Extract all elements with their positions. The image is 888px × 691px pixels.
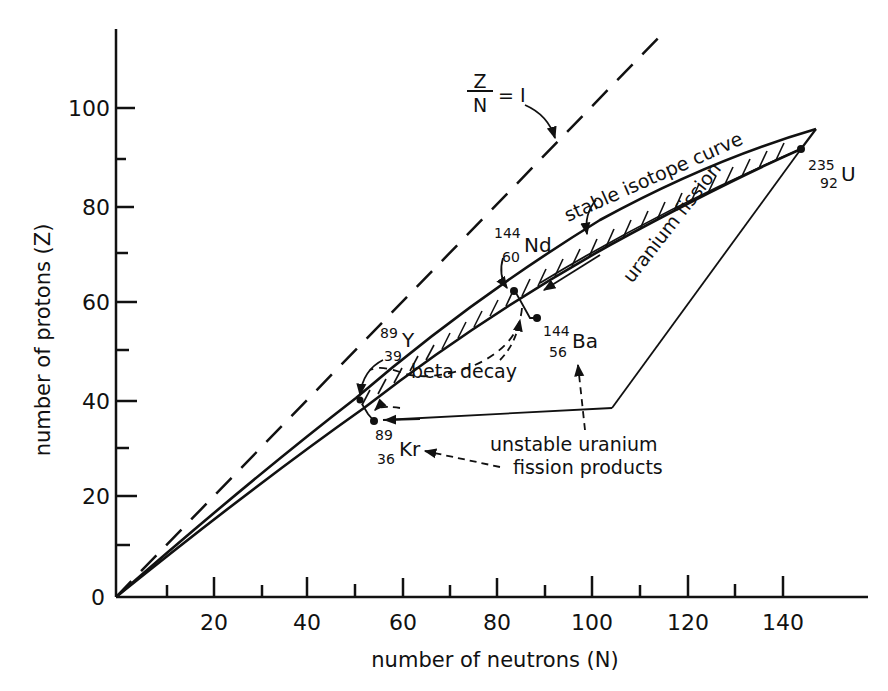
x-tick-label: 80 <box>483 610 511 635</box>
kr-symbol: Kr <box>399 437 421 461</box>
y-tick-label: 20 <box>82 484 110 509</box>
y-tick-label: 40 <box>82 389 110 414</box>
u-symbol: U <box>841 162 856 186</box>
fission-arrow-kr <box>385 419 420 420</box>
x-tick-label: 40 <box>293 610 321 635</box>
y-axis <box>116 29 137 597</box>
kr89-label: 89 36 Kr <box>375 427 421 467</box>
x-axis-title: number of neutrons (N) <box>371 648 618 672</box>
y-mass: 89 <box>380 325 398 341</box>
beta-decay-label: beta decay <box>411 360 517 382</box>
chart-canvas: 0 20 40 60 80 100 120 140 20 40 60 80 10… <box>0 0 888 691</box>
y89-label: 89 39 Y <box>380 325 415 364</box>
y89-point <box>357 397 364 404</box>
kr-atomic: 36 <box>377 451 395 467</box>
y-axis-title: number of protons (Z) <box>31 224 55 457</box>
u-atomic: 92 <box>820 175 838 191</box>
zn-equals: = I <box>498 84 526 106</box>
zn-equals-one-line <box>116 32 664 597</box>
y-tick-label: 100 <box>68 96 110 121</box>
beta-decay-arrow-y <box>375 407 400 410</box>
u-mass: 235 <box>808 157 835 173</box>
y-tick-labels: 20 40 60 80 100 <box>68 96 110 509</box>
x-tick-label: 60 <box>389 610 417 635</box>
fission-arrow-ba <box>544 255 600 290</box>
nd-mass: 144 <box>494 225 521 241</box>
kr-mass: 89 <box>375 427 393 443</box>
x-tick-label: 100 <box>571 610 613 635</box>
nd-symbol: Nd <box>524 233 552 257</box>
origin-label: 0 <box>91 585 105 610</box>
unstable-label-line1: unstable uranium <box>490 433 658 455</box>
y-tick-label: 60 <box>82 290 110 315</box>
nd-atomic: 60 <box>502 249 520 265</box>
x-tick-label: 120 <box>667 610 709 635</box>
ba144-label: 144 56 Ba <box>543 323 598 360</box>
u235-label: 235 92 U <box>808 157 856 191</box>
y-symbol: Y <box>401 328 415 352</box>
unstable-label-line2: fission products <box>513 456 663 478</box>
x-axis <box>116 575 868 597</box>
u235-point <box>797 145 805 153</box>
ba-symbol: Ba <box>572 329 598 353</box>
x-tick-label: 20 <box>200 610 228 635</box>
zn-pointer-arrow <box>525 105 555 138</box>
zn-denominator: N <box>473 94 487 116</box>
ba-mass: 144 <box>543 323 570 339</box>
nd144-label: 144 60 Nd <box>494 225 552 265</box>
y-atomic: 39 <box>384 348 402 364</box>
unstable-pointer-kr <box>425 451 500 467</box>
zn-numerator: Z <box>473 70 486 92</box>
x-tick-labels: 20 40 60 80 100 120 140 <box>200 610 804 635</box>
x-tick-label: 140 <box>762 610 804 635</box>
zn-label: Z N = I <box>467 70 526 116</box>
y-tick-label: 80 <box>82 195 110 220</box>
ba-atomic: 56 <box>549 344 567 360</box>
unstable-pointer-ba <box>578 365 585 430</box>
